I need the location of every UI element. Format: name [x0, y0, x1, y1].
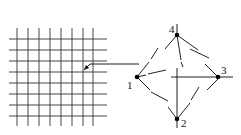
node-1-dot: [135, 75, 140, 80]
node-4-dot: [175, 33, 180, 38]
edge-segment: [191, 87, 199, 100]
edge-segment: [190, 49, 209, 58]
pointer-arrow: [84, 64, 139, 70]
edge-segment: [137, 77, 150, 90]
node-2-label: 2: [181, 117, 187, 129]
grid-mesh: [9, 28, 107, 126]
node-2-dot: [175, 117, 180, 122]
diagram-canvas: 1234: [0, 0, 241, 135]
edge-segment: [151, 48, 158, 59]
edge-segment: [177, 35, 181, 60]
edge-segment: [165, 35, 177, 49]
edge-segment: [177, 35, 198, 50]
edge-segment: [181, 62, 183, 67]
arrow-line: [84, 64, 139, 70]
edge-segment: [151, 92, 168, 101]
node-3-dot: [216, 75, 221, 80]
edge-segment: [148, 70, 166, 74]
edge-segment: [205, 64, 218, 77]
node-4-label: 4: [169, 23, 175, 35]
node-1-label: 1: [127, 79, 133, 91]
node-3-label: 3: [221, 64, 227, 76]
edge-segment: [207, 79, 218, 90]
